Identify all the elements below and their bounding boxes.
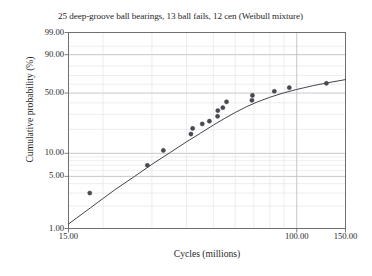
plot-canvas: [0, 0, 372, 276]
data-point: [324, 81, 328, 85]
data-point: [145, 163, 149, 167]
data-point: [221, 106, 225, 110]
data-point: [250, 98, 254, 102]
data-point: [189, 132, 193, 136]
data-point: [250, 93, 254, 97]
data-point: [200, 122, 204, 126]
fit-curve: [69, 80, 346, 224]
data-point: [88, 191, 92, 195]
data-point: [287, 86, 291, 90]
data-point: [161, 148, 165, 152]
data-point: [207, 119, 211, 123]
plot-frame: [69, 33, 346, 229]
data-point: [216, 109, 220, 113]
data-point: [191, 126, 195, 130]
weibull-probability-plot: 25 deep-groove ball bearings, 13 ball fa…: [0, 0, 372, 276]
data-point: [215, 114, 219, 118]
data-point: [272, 89, 276, 93]
data-point: [224, 100, 228, 104]
